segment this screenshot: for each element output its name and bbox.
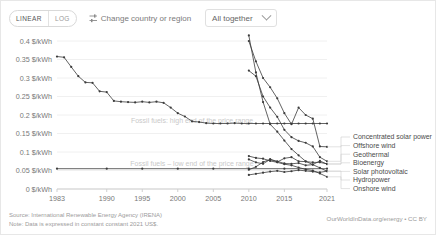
data-point: [77, 75, 79, 77]
data-point: [177, 168, 179, 170]
data-point: [283, 139, 285, 141]
data-point: [248, 34, 250, 36]
series-line: [249, 71, 327, 162]
data-point: [191, 120, 193, 122]
chart-annotation: Fossil fuels – low end of the price rang…: [130, 160, 253, 168]
data-point: [297, 122, 299, 124]
data-point: [276, 97, 278, 99]
data-point: [290, 148, 292, 150]
legend-label[interactable]: Onshore wind: [353, 185, 396, 192]
data-point: [305, 122, 307, 124]
data-point: [290, 156, 292, 158]
y-axis-tick: 0.25 $/kWh: [16, 92, 52, 101]
legend-connector: [327, 171, 350, 180]
data-point: [84, 81, 86, 83]
data-point: [312, 169, 314, 171]
data-point: [212, 122, 214, 124]
legend-connector: [327, 154, 350, 164]
series-line: [249, 41, 327, 147]
data-point: [198, 121, 200, 123]
data-point: [326, 168, 328, 170]
data-point: [297, 162, 299, 164]
attribution-text[interactable]: OurWorldInData.org/energy • CC BY: [327, 215, 427, 222]
data-point: [56, 168, 58, 170]
data-point: [248, 70, 250, 72]
series-line: [249, 156, 327, 177]
data-point: [262, 101, 264, 103]
data-point: [290, 170, 292, 172]
data-point: [255, 173, 257, 175]
data-point: [262, 122, 264, 124]
data-point: [312, 118, 314, 120]
legend-label[interactable]: Hydropower: [353, 176, 391, 184]
legend-label[interactable]: Solar photovoltaic: [353, 168, 408, 176]
data-point: [326, 122, 328, 124]
data-point: [276, 161, 278, 163]
scale-toggle[interactable]: LINEAR LOG: [9, 10, 77, 27]
data-point: [63, 56, 65, 58]
y-axis-tick: 0.35 $/kWh: [16, 55, 52, 64]
data-point: [290, 122, 292, 124]
data-point: [255, 60, 257, 62]
change-country-or-region-button[interactable]: Change country or region: [89, 14, 191, 23]
data-point: [319, 145, 321, 147]
data-point: [262, 172, 264, 174]
legend-connector: [327, 177, 350, 189]
data-point: [276, 116, 278, 118]
data-point: [305, 114, 307, 116]
data-point: [262, 77, 264, 79]
data-point: [297, 107, 299, 109]
data-point: [319, 172, 321, 174]
data-point: [141, 101, 143, 103]
data-point: [255, 122, 257, 124]
data-point: [241, 122, 243, 124]
data-point: [56, 55, 58, 57]
data-point: [305, 160, 307, 162]
legend-label[interactable]: Geothermal: [353, 151, 389, 158]
data-point: [312, 163, 314, 165]
data-point: [177, 112, 179, 114]
data-point: [219, 122, 221, 124]
line-chart: 0 $/kWh0.05 $/kWh0.1 $/kWh0.15 $/kWh0.2 …: [1, 33, 436, 209]
scale-option-linear[interactable]: LINEAR: [10, 11, 49, 26]
data-point: [106, 168, 108, 170]
data-point: [255, 157, 257, 159]
scale-option-log[interactable]: LOG: [49, 11, 76, 26]
x-axis-tick: 2000: [170, 194, 186, 203]
data-point: [255, 71, 257, 73]
data-point: [283, 168, 285, 170]
change-country-or-region-label: Change country or region: [101, 14, 191, 23]
data-point: [70, 66, 72, 68]
filter-icon: [89, 14, 98, 23]
chevron-down-icon: [261, 10, 271, 20]
data-point: [170, 107, 172, 109]
data-point: [283, 163, 285, 165]
x-axis-tick: 2005: [205, 194, 221, 203]
data-point: [141, 168, 143, 170]
data-point: [155, 101, 157, 103]
y-axis-tick: 0.4 $/kWh: [20, 37, 52, 46]
data-point: [319, 122, 321, 124]
y-axis-tick: 0 $/kWh: [26, 185, 52, 194]
series-line: [57, 57, 327, 124]
region-selector[interactable]: All together: [205, 9, 276, 27]
data-point: [312, 122, 314, 124]
data-point: [276, 170, 278, 172]
legend-label[interactable]: Offshore wind: [353, 142, 396, 149]
x-axis-tick: 1995: [134, 194, 150, 203]
data-point: [134, 101, 136, 103]
legend-connector: [327, 146, 350, 162]
data-point: [269, 86, 271, 88]
x-axis-tick: 2021: [319, 194, 335, 203]
data-point: [91, 82, 93, 84]
data-point: [305, 164, 307, 166]
y-axis-tick: 0.05 $/kWh: [16, 166, 52, 175]
data-point: [248, 168, 250, 170]
y-axis-tick: 0.15 $/kWh: [16, 129, 52, 138]
y-axis-tick: 0.1 $/kWh: [20, 148, 52, 157]
data-point: [226, 122, 228, 124]
chart-card: LINEAR LOG Change country or region All …: [0, 0, 436, 235]
legend-label[interactable]: Bioenergy: [353, 159, 385, 167]
data-point: [290, 136, 292, 138]
legend-label[interactable]: Concentrated solar power: [353, 133, 433, 141]
